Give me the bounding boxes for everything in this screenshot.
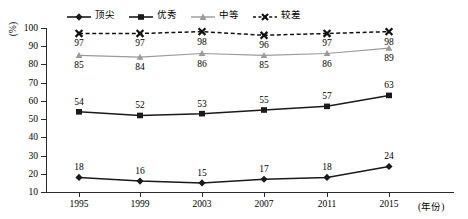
data-point[interactable] <box>386 45 393 51</box>
line-chart: 顶尖 优秀 中等 <box>0 0 468 219</box>
data-point[interactable] <box>324 104 330 110</box>
series-line-0 <box>79 166 389 182</box>
data-point[interactable] <box>323 174 330 181</box>
data-point[interactable] <box>199 111 205 117</box>
data-point[interactable] <box>386 28 393 35</box>
data-point[interactable] <box>198 179 205 186</box>
data-point[interactable] <box>261 107 267 113</box>
series-line-3 <box>79 32 389 36</box>
data-point[interactable] <box>260 176 267 183</box>
series-line-1 <box>79 95 389 115</box>
data-point[interactable] <box>386 93 392 99</box>
plot-lines <box>0 0 468 219</box>
data-point[interactable] <box>137 113 143 119</box>
series-line-2 <box>79 48 389 57</box>
data-point[interactable] <box>385 163 392 170</box>
data-point[interactable] <box>136 177 143 184</box>
data-point[interactable] <box>75 174 82 181</box>
data-point[interactable] <box>76 109 82 115</box>
